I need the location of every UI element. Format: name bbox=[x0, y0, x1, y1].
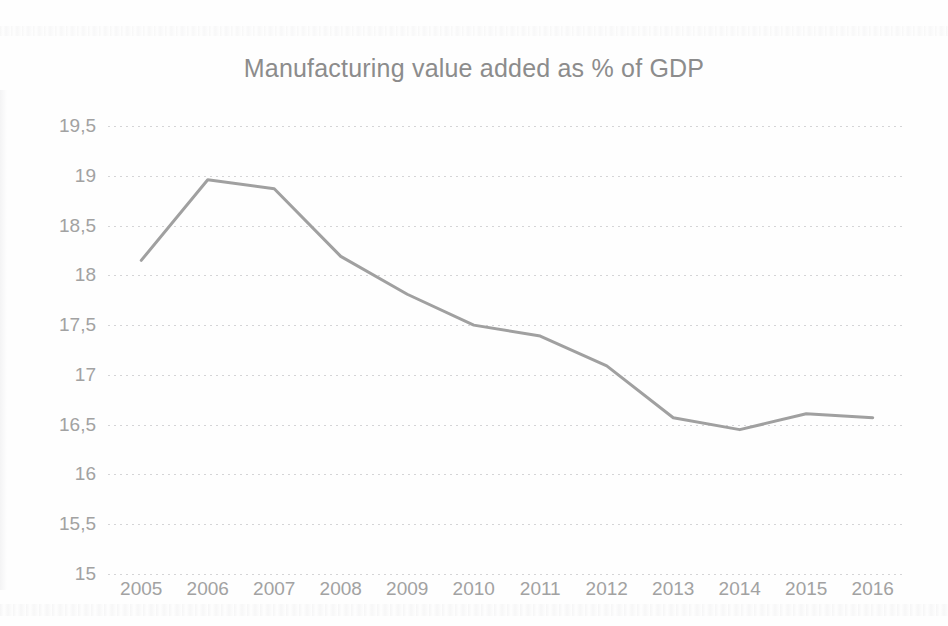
y-axis-tick-label: 18 bbox=[0, 264, 96, 286]
plot-area bbox=[108, 126, 906, 574]
gridline bbox=[108, 574, 906, 575]
y-axis-tick-label: 19 bbox=[0, 165, 96, 187]
x-axis-tick-label: 2015 bbox=[785, 578, 827, 600]
scan-noise-top bbox=[0, 26, 948, 36]
line-series bbox=[108, 126, 906, 574]
y-axis-tick-label: 17 bbox=[0, 364, 96, 386]
y-axis-tick-label: 19,5 bbox=[0, 115, 96, 137]
x-axis-tick-label: 2009 bbox=[386, 578, 428, 600]
y-axis: 19,51918,51817,51716,51615,515 bbox=[0, 126, 96, 574]
y-axis-tick-label: 16,5 bbox=[0, 414, 96, 436]
x-axis-tick-label: 2013 bbox=[652, 578, 694, 600]
x-axis-tick-label: 2005 bbox=[120, 578, 162, 600]
x-axis-tick-label: 2014 bbox=[719, 578, 761, 600]
x-axis-tick-label: 2011 bbox=[520, 578, 561, 600]
x-axis-tick-label: 2008 bbox=[320, 578, 362, 600]
y-axis-tick-label: 18,5 bbox=[0, 215, 96, 237]
y-axis-tick-label: 16 bbox=[0, 463, 96, 485]
chart-container: Manufacturing value added as % of GDP 19… bbox=[0, 0, 948, 626]
x-axis: 2005200620072008200920102011201220132014… bbox=[108, 578, 906, 608]
x-axis-tick-label: 2012 bbox=[586, 578, 628, 600]
x-axis-tick-label: 2007 bbox=[253, 578, 295, 600]
y-axis-tick-label: 15,5 bbox=[0, 513, 96, 535]
x-axis-tick-label: 2016 bbox=[852, 578, 894, 600]
x-axis-tick-label: 2006 bbox=[187, 578, 229, 600]
y-axis-tick-label: 15 bbox=[0, 563, 96, 585]
y-axis-tick-label: 17,5 bbox=[0, 314, 96, 336]
chart-title: Manufacturing value added as % of GDP bbox=[0, 54, 948, 83]
x-axis-tick-label: 2010 bbox=[453, 578, 495, 600]
series-polyline bbox=[141, 180, 873, 430]
